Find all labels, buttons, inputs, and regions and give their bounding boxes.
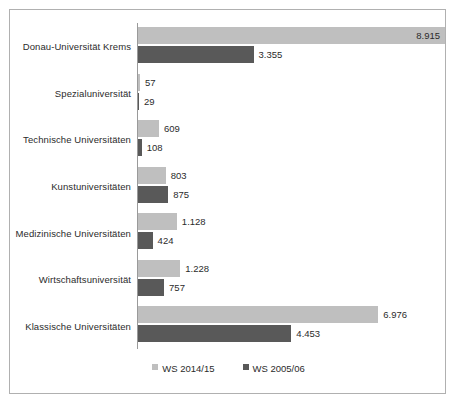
bar-track: 1.128 xyxy=(138,213,206,230)
bar-group: 8.9153.355 xyxy=(138,23,447,70)
category-axis-label: Donau-Universität Krems xyxy=(23,41,131,52)
bar-group: 6.9764.453 xyxy=(138,302,447,349)
plot-area: Donau-Universität Krems8.9153.355Spezial… xyxy=(10,10,447,395)
category-axis-label: Wirtschaftsuniversität xyxy=(39,274,131,285)
bar-value-label: 3.355 xyxy=(254,46,283,63)
bar-value-label: 8.915 xyxy=(416,27,440,44)
bar-track: 875 xyxy=(138,186,189,203)
chart-figure: Donau-Universität Krems8.9153.355Spezial… xyxy=(0,0,455,405)
category-axis-label: Technische Universitäten xyxy=(23,134,131,145)
bar-value-label: 1.228 xyxy=(180,260,209,277)
bar-value-label: 108 xyxy=(142,139,163,156)
category-axis-label: Kunstuniversitäten xyxy=(51,180,131,191)
bar-ws-2005-06[interactable] xyxy=(138,279,164,296)
bar-ws-2014-15[interactable] xyxy=(138,213,177,230)
bar-ws-2014-15[interactable] xyxy=(138,167,166,184)
category-row: Technische Universitäten609108 xyxy=(10,116,447,163)
bar-value-label: 29 xyxy=(139,93,155,110)
bar-value-label: 875 xyxy=(168,186,189,203)
bar-ws-2005-06[interactable] xyxy=(138,93,139,110)
category-axis-label: Medizinische Universitäten xyxy=(16,227,131,238)
bar-ws-2005-06[interactable] xyxy=(138,46,254,63)
bar-group: 803875 xyxy=(138,163,447,210)
bar-track: 4.453 xyxy=(138,325,320,342)
bar-group: 609108 xyxy=(138,116,447,163)
legend-item[interactable]: WS 2014/15 xyxy=(152,362,214,374)
category-row: Spezialuniversität5729 xyxy=(10,70,447,117)
chart-frame: Donau-Universität Krems8.9153.355Spezial… xyxy=(9,9,446,394)
legend-label: WS 2014/15 xyxy=(162,363,214,374)
bar-track: 108 xyxy=(138,139,163,156)
bar-value-label: 57 xyxy=(140,74,156,91)
category-row: Kunstuniversitäten803875 xyxy=(10,163,447,210)
bar-ws-2014-15[interactable] xyxy=(138,74,140,91)
chart-legend: WS 2014/15WS 2005/06 xyxy=(10,362,447,374)
bar-value-label: 757 xyxy=(164,279,185,296)
category-row: Klassische Universitäten6.9764.453 xyxy=(10,302,447,349)
bar-track: 1.228 xyxy=(138,260,209,277)
bar-track: 57 xyxy=(138,74,156,91)
category-axis-label: Klassische Universitäten xyxy=(25,320,131,331)
category-row: Medizinische Universitäten1.128424 xyxy=(10,209,447,256)
bar-ws-2014-15[interactable] xyxy=(138,306,378,323)
bar-value-label: 6.976 xyxy=(378,306,407,323)
bar-ws-2014-15[interactable]: 8.915 xyxy=(138,27,445,44)
bar-group: 5729 xyxy=(138,70,447,117)
bar-value-label: 609 xyxy=(159,120,180,137)
bar-value-label: 424 xyxy=(153,232,174,249)
bar-group: 1.128424 xyxy=(138,209,447,256)
legend-swatch-icon xyxy=(243,364,249,370)
legend-item[interactable]: WS 2005/06 xyxy=(243,362,305,374)
legend-swatch-icon xyxy=(152,364,158,370)
bar-track: 803 xyxy=(138,167,187,184)
bar-track: 757 xyxy=(138,279,185,296)
bar-value-label: 4.453 xyxy=(291,325,320,342)
bar-ws-2005-06[interactable] xyxy=(138,325,291,342)
bar-ws-2014-15[interactable] xyxy=(138,260,180,277)
bar-ws-2005-06[interactable] xyxy=(138,232,153,249)
category-axis-label: Spezialuniversität xyxy=(55,87,131,98)
legend-label: WS 2005/06 xyxy=(253,363,305,374)
bar-track: 8.915 xyxy=(138,27,445,44)
bar-group: 1.228757 xyxy=(138,256,447,303)
bar-track: 3.355 xyxy=(138,46,282,63)
bar-value-label: 803 xyxy=(166,167,187,184)
bar-track: 609 xyxy=(138,120,180,137)
bar-track: 6.976 xyxy=(138,306,407,323)
bar-ws-2005-06[interactable] xyxy=(138,186,168,203)
category-row: Donau-Universität Krems8.9153.355 xyxy=(10,23,447,70)
bar-ws-2014-15[interactable] xyxy=(138,120,159,137)
bar-track: 29 xyxy=(138,93,155,110)
bar-value-label: 1.128 xyxy=(177,213,206,230)
bar-ws-2005-06[interactable] xyxy=(138,139,142,156)
bar-track: 424 xyxy=(138,232,173,249)
category-row: Wirtschaftsuniversität1.228757 xyxy=(10,256,447,303)
